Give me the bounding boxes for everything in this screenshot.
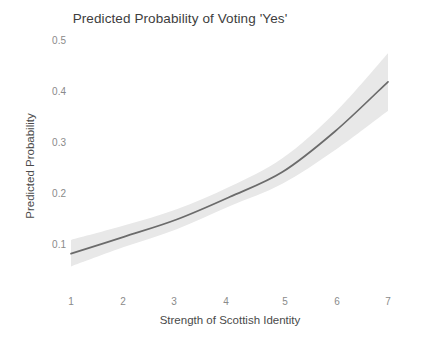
chart-container: Predicted Probability of Voting 'Yes' Pr… [0, 0, 428, 344]
plot-area [0, 0, 428, 344]
confidence-band [71, 53, 388, 266]
